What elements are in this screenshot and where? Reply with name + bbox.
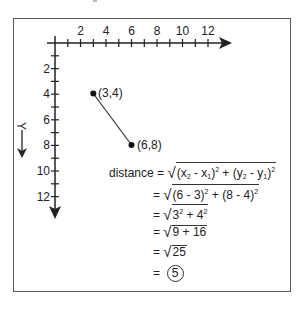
point-6-8 — [129, 142, 135, 148]
y-tick-label: 6 — [43, 114, 50, 126]
x-tick-label: 10 — [176, 25, 189, 37]
sqrt-icon: √ — [163, 243, 171, 260]
equals-sign: = — [153, 225, 160, 239]
equation-result: = 5 — [153, 265, 184, 282]
x-tick-label: 8 — [154, 25, 161, 37]
radicand: (6 - 3)2 + (8 - 4)2 — [172, 184, 260, 202]
radicand: 9 + 16 — [172, 225, 208, 239]
equation-lhs: distance — [109, 166, 154, 180]
radicand: (x2 - x1)2 + (y2 - y1)2 — [176, 162, 276, 183]
x-tick-label: 6 — [128, 25, 135, 37]
y-tick-label: 8 — [43, 139, 50, 151]
equals-sign: = — [153, 266, 160, 280]
sqrt-icon: √ — [167, 164, 175, 181]
sqrt-icon: √ — [163, 186, 171, 203]
y-axis-label: Y — [14, 122, 28, 130]
equation-line-3: = √32 + 42 — [153, 204, 208, 222]
coordinate-plot — [0, 0, 296, 310]
equation-line-1: distance = √(x2 - x1)2 + (y2 - y1)2 — [109, 162, 276, 183]
equals-sign: = — [153, 245, 160, 259]
radicand: 25 — [172, 245, 187, 259]
equation-line-4: = √9 + 16 — [153, 225, 207, 239]
y-tick-label: 2 — [43, 63, 50, 75]
point-label: (6,8) — [137, 139, 162, 151]
y-tick-label: 10 — [37, 165, 50, 177]
equals-sign: = — [157, 166, 164, 180]
y-tick-label: 4 — [43, 88, 50, 100]
sqrt-icon: √ — [163, 206, 171, 223]
equals-sign: = — [153, 208, 160, 222]
x-tick-label: 12 — [201, 25, 214, 37]
y-tick-label: 12 — [37, 191, 50, 203]
point-label: (3,4) — [98, 87, 123, 99]
sqrt-icon: √ — [163, 223, 171, 240]
segment-line — [93, 94, 131, 146]
circled-result: 5 — [167, 265, 184, 282]
equation-line-5: = √25 — [153, 245, 187, 259]
x-tick-label: 2 — [77, 25, 84, 37]
equals-sign: = — [153, 188, 160, 202]
point-3-4 — [90, 91, 96, 97]
equation-line-2: = √(6 - 3)2 + (8 - 4)2 — [153, 184, 259, 202]
radicand: 32 + 42 — [172, 204, 209, 222]
x-tick-label: 4 — [103, 25, 110, 37]
